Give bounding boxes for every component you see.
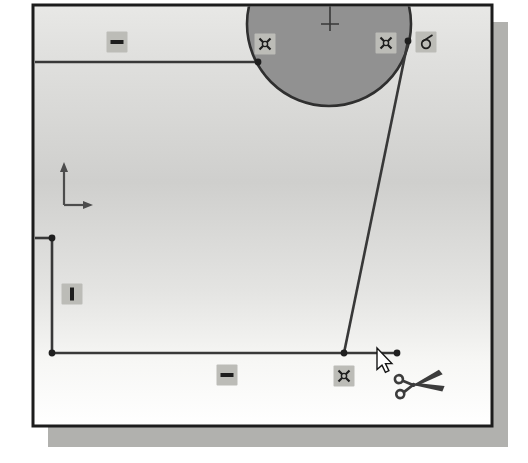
tangent-relation-icon [416, 32, 437, 53]
relation-badge-horizontal[interactable] [107, 32, 128, 53]
relation-badge-coincident[interactable] [376, 33, 397, 54]
sketch-canvas[interactable] [0, 0, 528, 463]
cad-sketch-figure [0, 0, 528, 463]
relation-badge-coincident[interactable] [255, 34, 276, 55]
sketch-point[interactable] [394, 350, 401, 357]
sketch-point[interactable] [405, 38, 412, 45]
relation-badge-tangent[interactable] [416, 32, 437, 53]
relation-badge-vertical[interactable] [62, 284, 83, 305]
relation-badge-coincident[interactable] [334, 366, 355, 387]
sketch-point[interactable] [341, 350, 348, 357]
sketch-point[interactable] [49, 350, 56, 357]
sketch-point[interactable] [49, 235, 56, 242]
sketch-point[interactable] [255, 59, 262, 66]
relation-badge-horizontal[interactable] [217, 365, 238, 386]
